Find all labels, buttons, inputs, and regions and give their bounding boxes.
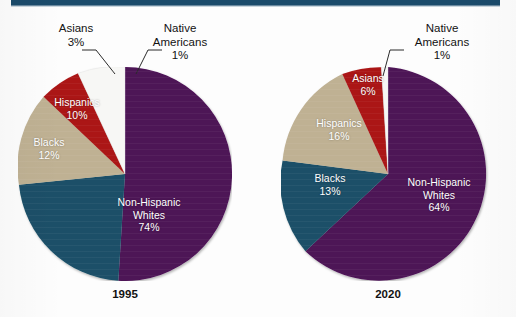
pie-chart-1995: [18, 67, 232, 281]
callout-asians-value: 3%: [68, 36, 85, 48]
pie-2020-svg: [281, 67, 495, 281]
callout-native-name-line1: Native: [164, 22, 197, 34]
callout-native-name-line2: Americans: [415, 36, 469, 48]
year-label-1995: 1995: [85, 288, 165, 300]
callout-asians-name: Asians: [59, 22, 94, 34]
pie-chart-2020: [281, 67, 495, 281]
callout-native-americans-2020: Native Americans 1%: [390, 22, 494, 63]
figure-canvas: Asians 3% Native Americans 1% Hispanics …: [0, 0, 516, 317]
callout-native-name-line2: Americans: [153, 36, 207, 48]
callout-native-value: 1%: [172, 49, 189, 61]
pie-1995-svg: [18, 67, 232, 281]
leader-line-asians: [82, 50, 115, 74]
callout-native-name-line1: Native: [426, 22, 459, 34]
callout-asians-1995: Asians 3%: [36, 22, 116, 49]
slice-non-hispanic-whites: [118, 67, 232, 281]
year-label-2020: 2020: [348, 288, 428, 300]
callout-native-americans-1995: Native Americans 1%: [128, 22, 232, 63]
slice-blacks: [19, 174, 125, 281]
callout-native-value: 1%: [434, 49, 451, 61]
header-rule-shadow: [11, 5, 500, 7]
